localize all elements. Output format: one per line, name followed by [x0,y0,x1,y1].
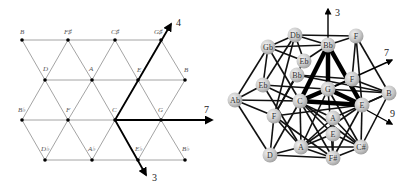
svg-text:Eb: Eb [259,81,268,90]
svg-text:A♭: A♭ [87,145,96,153]
svg-text:A: A [330,114,336,123]
svg-text:A: A [298,143,304,152]
svg-text:G♯: G♯ [154,28,163,36]
svg-text:F: F [354,32,359,41]
network-node: Bb [290,68,305,83]
svg-text:E: E [360,101,365,110]
svg-text:Eb: Eb [300,57,309,66]
svg-text:A: A [88,65,94,73]
svg-text:E♭: E♭ [134,145,143,153]
svg-text:D♭: D♭ [40,145,50,153]
network-node: E [355,98,370,113]
svg-text:E: E [136,66,142,74]
network-node: Eb [256,78,271,93]
network-node: E [326,127,341,142]
network-node: C# [354,140,369,155]
svg-text:B: B [386,89,391,98]
network-node: Db [288,28,303,43]
lattice-node: F [65,106,71,122]
lattice-edges [22,40,185,160]
lattice-node: D [42,65,48,82]
svg-text:D: D [267,151,273,160]
svg-text:G: G [325,85,331,94]
lattice-node: E [136,66,142,82]
network-node: G [321,82,336,97]
lattice-nodes: B F♯ C♯ G♯ D A E B B♭ F C G D♭ A♭ E♭ B♭ [18,28,190,162]
svg-text:Bb: Bb [323,41,332,50]
svg-text:Ab: Ab [230,96,240,105]
svg-text:E: E [331,130,336,139]
svg-text:F: F [65,106,71,114]
axis-label-7: 7 [384,47,389,58]
lattice-node: B♭ [182,145,190,162]
network-node: A [326,111,341,126]
axis-label-9: 9 [390,108,395,119]
diagram-canvas: 4 7 3 B F♯ C♯ G♯ D A E B B♭ F C G D♭ A♭ … [0,0,416,189]
network-node: A [294,140,309,155]
lattice-axes: 4 7 3 [115,17,212,183]
svg-text:F♯: F♯ [63,28,72,36]
svg-text:B♭: B♭ [18,106,26,114]
pitch-network: 3 7 9 Db Gb Bb F Eb Bb Eb F Ab G B C E F… [228,7,397,166]
axis-label-3: 3 [335,7,340,18]
lattice-node: B♭ [18,106,26,122]
network-node: Gb [261,40,276,55]
network-node: F [267,109,282,124]
svg-text:B♭: B♭ [182,145,190,153]
svg-text:C♯: C♯ [111,28,120,36]
svg-text:F: F [350,75,355,84]
network-node: F [349,29,364,44]
network-node: F [345,72,360,87]
network-node: D [263,148,278,163]
network-node: Bb [321,38,336,53]
svg-text:C: C [297,97,302,106]
svg-text:C: C [112,106,117,114]
svg-text:B: B [20,28,25,36]
svg-text:Bb: Bb [292,71,301,80]
svg-text:F#: F# [329,154,337,163]
svg-text:Db: Db [290,31,300,40]
svg-text:Gb: Gb [263,43,273,52]
svg-text:B: B [184,66,189,74]
svg-text:C#: C# [356,143,365,152]
axis-label-3: 3 [152,172,157,183]
svg-text:F: F [272,112,277,121]
svg-text:D: D [42,65,48,73]
network-node: F# [326,151,341,166]
svg-text:G: G [158,106,163,114]
network-node: Ab [228,93,243,108]
network-node: B [382,86,397,101]
axis-label-4: 4 [176,17,181,28]
tonnetz-lattice: 4 7 3 B F♯ C♯ G♯ D A E B B♭ F C G D♭ A♭ … [18,17,212,183]
network-node: Eb [297,54,312,69]
lattice-node: C [112,106,117,122]
lattice-node: B [183,66,189,82]
axis-label-7: 7 [204,104,209,115]
lattice-node: A [88,65,94,82]
network-node: C [293,94,308,109]
